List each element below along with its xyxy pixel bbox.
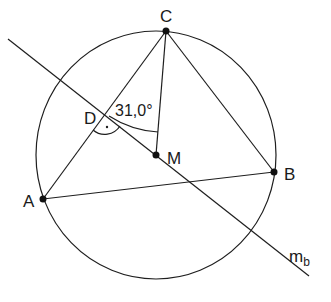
label-d: D [84, 109, 96, 128]
point-m [153, 152, 160, 159]
line-m-b [8, 39, 309, 276]
label-a: A [23, 192, 35, 211]
side-cb [166, 31, 274, 172]
geometry-diagram: C A B D M 31,0° mb [0, 0, 331, 302]
label-m: M [167, 149, 181, 168]
label-b: B [284, 165, 295, 184]
point-c [163, 28, 170, 35]
segment-cm [156, 31, 166, 155]
label-m-b: mb [289, 247, 310, 269]
label-c: C [160, 7, 172, 26]
point-b [271, 169, 278, 176]
point-a [40, 196, 47, 203]
right-angle-dot [106, 126, 108, 128]
label-m-b-main: m [289, 247, 303, 266]
label-m-b-sub: b [303, 255, 310, 269]
side-ab [43, 172, 274, 199]
angle-label: 31,0° [115, 102, 153, 119]
